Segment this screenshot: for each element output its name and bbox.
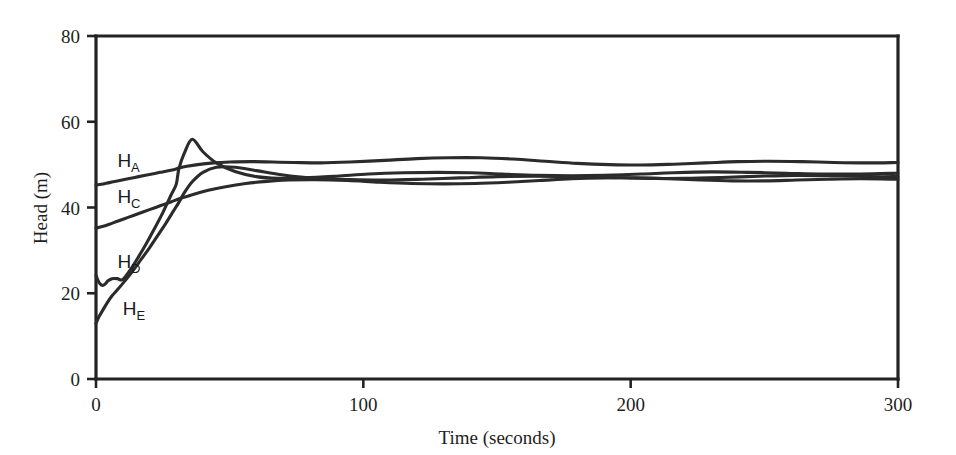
x-axis-title: Time (seconds) <box>439 427 556 449</box>
annotation-base: H <box>123 298 137 319</box>
x-tick-label: 0 <box>91 394 101 415</box>
annotation-base: H <box>117 186 131 207</box>
y-tick-label: 80 <box>61 26 80 47</box>
y-tick-label: 60 <box>61 112 80 133</box>
annotation-subscript: C <box>131 196 140 211</box>
annotation-subscript: E <box>136 308 145 323</box>
annotation-subscript: A <box>131 160 140 175</box>
chart-figure: 020406080 0100200300 HAHCHDHE Time (seco… <box>0 0 956 455</box>
annotation-subscript: D <box>131 261 140 276</box>
x-tick-label: 200 <box>616 394 645 415</box>
y-tick-label: 20 <box>61 283 80 304</box>
y-axis-title: Head (m) <box>30 172 52 244</box>
annotation-base: H <box>117 150 131 171</box>
x-tick-label: 300 <box>884 394 913 415</box>
annotation-base: H <box>117 251 131 272</box>
chart-background <box>0 0 956 455</box>
x-tick-label: 100 <box>349 394 378 415</box>
y-tick-label: 0 <box>71 369 81 390</box>
y-tick-label: 40 <box>61 198 80 219</box>
head-vs-time-line-chart: 020406080 0100200300 HAHCHDHE Time (seco… <box>0 0 956 455</box>
